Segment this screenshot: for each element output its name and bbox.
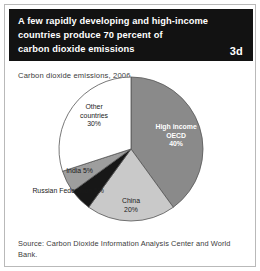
figure-header-band: A few rapidly developing and high-income… <box>9 9 253 61</box>
figure-title: A few rapidly developing and high-income… <box>18 14 214 57</box>
pie-callout-russian-federation: Russian Federation 5% <box>32 187 104 194</box>
figure-title-line-1: A few rapidly developing and high-income <box>18 14 214 28</box>
source-note: Source: Carbon Dioxide Information Analy… <box>18 239 242 260</box>
figure-card: A few rapidly developing and high-income… <box>4 4 256 267</box>
pie-chart: High income OECD 40%China 20%India 5%Rus… <box>9 61 253 236</box>
chart-body: Carbon dioxide emissions, 2006 High inco… <box>9 61 253 236</box>
pie-chart-svg: High income OECD 40%China 20%India 5%Rus… <box>9 61 253 236</box>
figure-title-line-3: carbon dioxide emissions <box>18 42 214 56</box>
pie-callout-india: India 5% <box>66 167 93 174</box>
figure-number-badge: 3d <box>230 45 243 57</box>
figure-title-line-2: countries produce 70 percent of <box>18 28 214 42</box>
pie-label-china: China20% <box>122 197 140 212</box>
